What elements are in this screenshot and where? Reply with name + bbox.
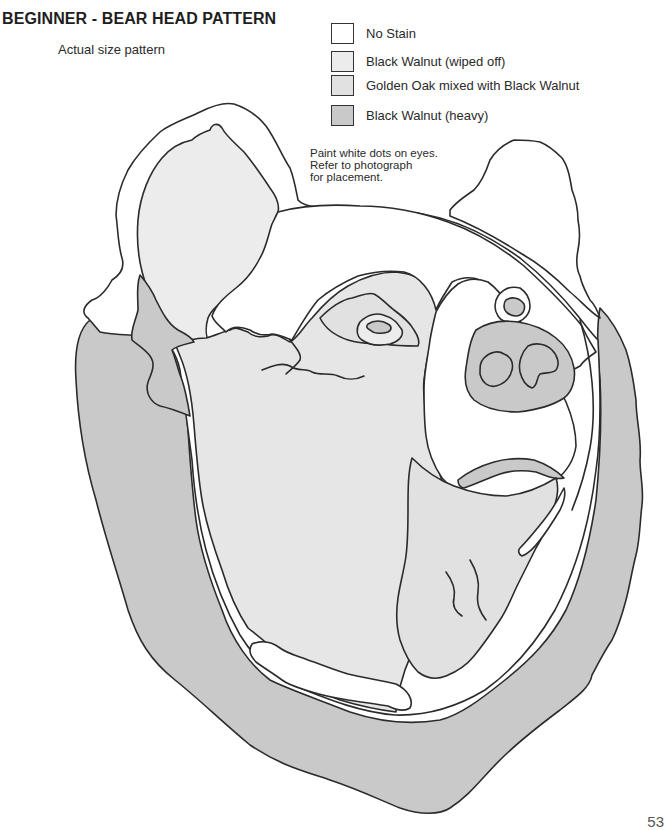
note-line: Paint white dots on eyes. bbox=[310, 147, 438, 159]
page-number: 53 bbox=[647, 813, 664, 830]
eye-paint-note: Paint white dots on eyes. Refer to photo… bbox=[310, 147, 438, 183]
note-line: Refer to photograph bbox=[310, 159, 438, 171]
note-line: for placement. bbox=[310, 171, 438, 183]
right-eye bbox=[504, 298, 525, 316]
